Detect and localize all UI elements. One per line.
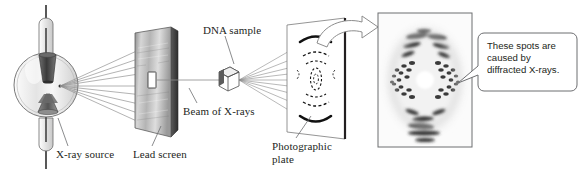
label-photographic-plate-line1: Photographic	[272, 140, 332, 152]
lead-screen	[135, 27, 178, 137]
callout-text: These spots are caused by diffracted X-r…	[487, 40, 559, 77]
leader-beam	[189, 88, 197, 103]
label-lead-screen: Lead screen	[133, 148, 187, 160]
callout-line-3: diffracted X-rays.	[487, 64, 559, 76]
label-photographic-plate-line2: plate	[272, 153, 294, 165]
leader-dna-sample	[225, 36, 234, 64]
dna-sample-cube	[219, 67, 239, 91]
callout-line-1: These spots are	[487, 40, 559, 52]
anode-bottom-ellipse	[43, 80, 53, 83]
diagram-canvas: X-ray source Lead screen DNA sample Beam…	[0, 0, 583, 174]
cathode-base-ellipse	[38, 109, 58, 114]
lead-screen-edge	[171, 27, 178, 137]
leader-xray-source	[58, 118, 68, 146]
label-beam-of-xrays: Beam of X-rays	[183, 105, 255, 117]
anode-top-ellipse	[39, 53, 56, 58]
leader-lines	[58, 36, 311, 146]
label-xray-source: X-ray source	[56, 148, 114, 160]
diffraction-photograph	[378, 13, 472, 147]
callout-line-2: caused by	[487, 52, 559, 64]
photo-beamstop	[416, 71, 434, 89]
lead-screen-slit	[148, 72, 156, 88]
dna-sample-shade	[219, 69, 224, 86]
label-dna-sample: DNA sample	[203, 24, 261, 36]
label-photographic-plate: Photographic plate	[272, 140, 342, 165]
